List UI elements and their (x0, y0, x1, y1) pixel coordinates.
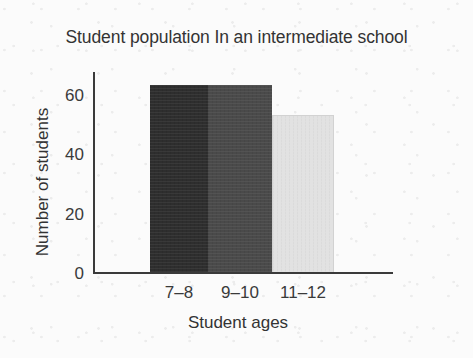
bar (150, 85, 208, 272)
plot-area: 0204060 (93, 70, 393, 274)
chart-title: Student population In an intermediate sc… (0, 27, 473, 48)
bar-chart-figure: Student population In an intermediate sc… (0, 0, 473, 358)
x-axis-title: Student ages (88, 313, 388, 333)
y-axis-tick-label: 40 (65, 145, 84, 165)
y-axis-line (93, 72, 95, 274)
x-axis-tick-label: 11–12 (272, 283, 334, 305)
x-axis-tick-labels: 7–89–1011–12 (150, 283, 334, 305)
y-axis-tick-label: 20 (65, 205, 84, 225)
y-axis-tick-label: 60 (65, 86, 84, 106)
x-axis-tick-label: 9–10 (208, 283, 272, 305)
x-axis-tick-label: 7–8 (150, 283, 208, 305)
x-axis-line (93, 272, 393, 274)
bar (208, 85, 272, 272)
y-axis-title: Number of students (33, 77, 53, 287)
bar-series (150, 70, 334, 272)
y-axis-tick-label: 0 (75, 264, 84, 284)
bar (272, 115, 334, 272)
